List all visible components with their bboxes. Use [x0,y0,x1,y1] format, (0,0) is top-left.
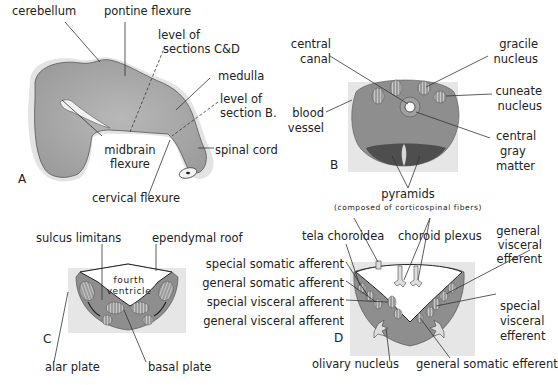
label-midbrain-line1: midbrain [100,143,160,157]
label-olivary-nucleus: olivary nucleus [312,357,399,371]
panel-letter-c: C [43,332,51,346]
label-gve-line1: general [490,224,540,238]
label-level-b-line2: section B. [220,106,277,120]
label-cervical-flexure: cervical flexure [92,191,180,205]
panel-c-section [54,244,186,362]
label-gve-line2: visceral [490,238,542,252]
label-choroid-plexus: choroid plexus [398,229,482,243]
label-sve-line2: visceral [500,314,544,328]
label-cerebellum: cerebellum [12,4,76,18]
label-gracile-line2: nucleus [490,52,538,66]
label-special-somatic-afferent: special somatic afferent [190,257,344,271]
label-general-somatic-afferent: general somatic afferent [190,276,344,290]
label-general-somatic-efferent: general somatic efferent [416,357,558,371]
label-blood-vessel-line1: blood [280,106,324,120]
label-midbrain-line2: flexure [100,157,160,171]
panel-b-medulla-section [326,56,492,188]
label-fourth-ventricle-line2: ventricle [104,284,154,298]
label-pyramids: pyramids [368,187,448,201]
label-central-gray-line1: central [496,129,536,143]
label-cuneate-line2: nucleus [488,99,542,113]
label-sve-line1: special [500,299,540,313]
label-level-b-line1: level of [220,92,262,106]
label-pontine-flexure: pontine flexure [104,4,191,18]
label-sulcus-limitans: sulcus limitans [36,231,121,245]
label-gracile-line1: gracile [490,37,538,51]
label-cuneate-line1: cuneate [488,84,542,98]
label-tela-choroidea: tela choroidea [302,229,384,243]
label-ependymal-roof: ependymal roof [152,231,243,245]
label-gve-line3: efferent [490,252,542,266]
label-central-canal-line2: canal [280,52,331,66]
label-sve-line3: efferent [500,329,545,343]
label-level-cd-line2: sections C&D [163,42,240,56]
label-level-cd-line1: level of [158,28,200,42]
panel-letter-a: A [18,172,26,186]
label-pyramids-note: (composed of corticospinal fibers) [320,201,496,215]
label-special-visceral-afferent: special visceral afferent [190,295,344,309]
label-spinal-cord: spinal cord [215,143,278,157]
label-basal-plate: basal plate [148,360,211,374]
label-general-visceral-afferent: general visceral afferent [190,314,344,328]
label-blood-vessel-line2: vessel [280,121,324,135]
panel-letter-b: B [330,158,338,172]
label-central-gray-line3: matter [496,159,535,173]
label-central-gray-line2: gray [500,144,526,158]
panel-letter-d: D [334,331,343,345]
label-alar-plate: alar plate [45,360,100,374]
label-central-canal-line1: central [280,37,331,51]
label-medulla: medulla [218,69,264,83]
